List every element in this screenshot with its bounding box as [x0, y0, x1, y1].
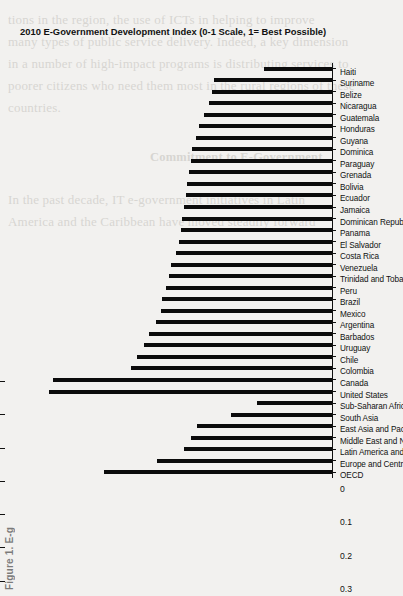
bar-slot [16, 121, 332, 133]
bar [264, 67, 332, 71]
bar-slot [16, 397, 332, 409]
bar-slot [16, 97, 332, 109]
bar-slot [16, 155, 332, 167]
bar [161, 309, 332, 313]
value-tick-label: 0 [340, 484, 345, 494]
bar-slot [16, 224, 332, 236]
bar-slot [16, 144, 332, 156]
bar [189, 170, 332, 174]
bar-slot [16, 190, 332, 202]
bar [184, 447, 332, 451]
bar [181, 228, 332, 232]
bar-slot [16, 317, 332, 329]
bar-slot [16, 305, 332, 317]
bar [191, 159, 332, 163]
bar [166, 286, 332, 290]
bar-slot [16, 466, 332, 478]
bar [187, 182, 332, 186]
bar-slot [16, 201, 332, 213]
bar [191, 436, 332, 440]
bar-slot [16, 259, 332, 271]
value-tick [0, 547, 5, 548]
bar-slot [16, 363, 332, 375]
bar-slot [16, 409, 332, 421]
bar-slot [16, 340, 332, 352]
bar [137, 355, 332, 359]
value-tick-label: 0.1 [340, 517, 352, 527]
bar [171, 263, 332, 267]
bar [214, 78, 332, 82]
bar-chart: OECDEurope and Central AsiaLatin America… [0, 0, 403, 596]
bar-slot [16, 374, 332, 386]
value-tick-label: 0.3 [340, 584, 352, 594]
bar [231, 413, 332, 417]
value-tick-label: 0.2 [340, 551, 352, 561]
bar [257, 401, 332, 405]
bar-slot [16, 132, 332, 144]
bar-slot [16, 386, 332, 398]
bar-slot [16, 270, 332, 282]
bar [104, 470, 332, 474]
bar [131, 366, 332, 370]
value-tick [0, 414, 5, 415]
bar [176, 251, 332, 255]
bar [199, 124, 332, 128]
bar [162, 297, 332, 301]
rotated-figure: Figure 1. E-g OECDEurope and Central Asi… [0, 0, 403, 596]
bar-slot [16, 420, 332, 432]
value-axis-tick-labels: 00.10.20.30.40.50.60.70.80.9 [338, 63, 352, 478]
bar [149, 332, 332, 336]
bar [196, 136, 332, 140]
bar [49, 390, 332, 394]
bar [53, 378, 332, 382]
bar-slot [16, 432, 332, 444]
bar [157, 459, 332, 463]
bar-slot [16, 74, 332, 86]
bar-slot [16, 167, 332, 179]
bars-container [16, 63, 332, 478]
value-tick [0, 381, 5, 382]
value-tick [0, 514, 5, 515]
plot-area [16, 63, 332, 478]
value-tick [0, 448, 5, 449]
bar [144, 343, 332, 347]
bar [184, 205, 332, 209]
bar-slot [16, 282, 332, 294]
bar-slot [16, 178, 332, 190]
value-axis-title-wrap: 2010 E-Government Development Index (0-1… [14, 16, 344, 36]
bar-slot [16, 63, 332, 75]
value-tick [0, 581, 5, 582]
bar [204, 113, 332, 117]
bar [197, 424, 332, 428]
bar-slot [16, 109, 332, 121]
bar-slot [16, 443, 332, 455]
bar-slot [16, 294, 332, 306]
bar-slot [16, 455, 332, 467]
bar [192, 147, 332, 151]
bar-slot [16, 328, 332, 340]
bar-slot [16, 247, 332, 259]
bar [212, 90, 332, 94]
bar-slot [16, 86, 332, 98]
bar [156, 320, 332, 324]
bar-slot [16, 213, 332, 225]
bar-slot [16, 351, 332, 363]
bar [182, 217, 332, 221]
value-axis-title: 2010 E-Government Development Index (0-1… [20, 26, 326, 37]
bar [169, 274, 332, 278]
bar [186, 193, 332, 197]
value-tick [0, 481, 5, 482]
bar [209, 101, 332, 105]
bar-slot [16, 236, 332, 248]
bar [179, 240, 332, 244]
